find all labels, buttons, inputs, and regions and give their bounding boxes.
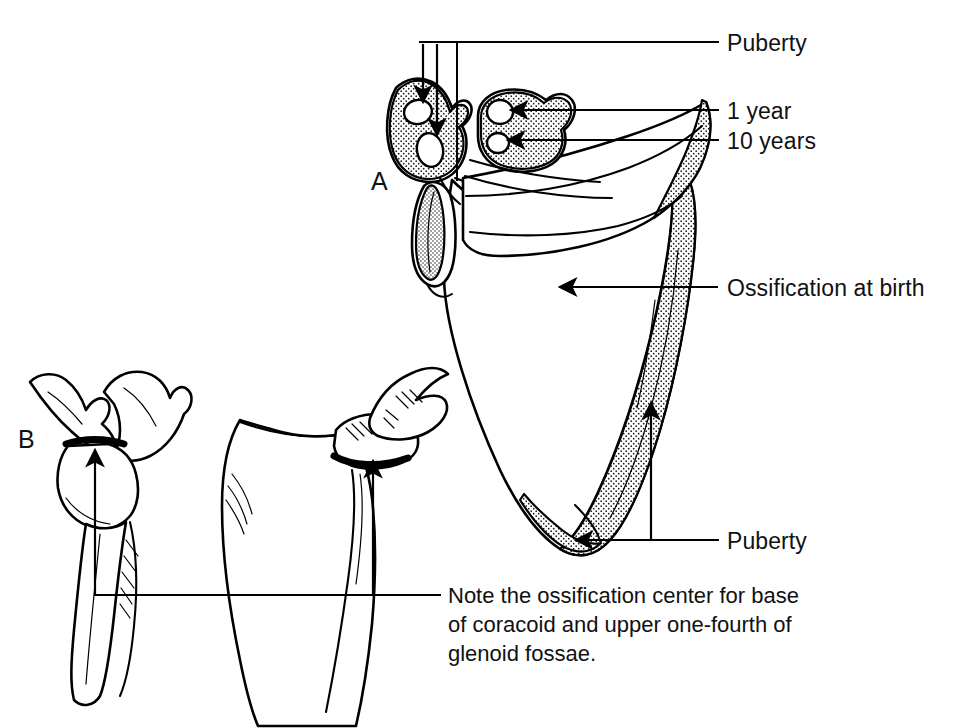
- scapula-lateral-view: [30, 372, 191, 705]
- label-ossification-at-birth: Ossification at birth: [727, 275, 925, 301]
- label-ten-years: 10 years: [727, 128, 816, 154]
- ossification-figure: Puberty 1 year 10 years Ossification at …: [0, 0, 970, 728]
- label-one-year: 1 year: [727, 98, 792, 124]
- label-puberty-bottom: Puberty: [727, 528, 807, 554]
- figure-canvas: Puberty 1 year 10 years Ossification at …: [0, 0, 970, 728]
- note-line-1: Note the ossification center for base: [448, 583, 799, 608]
- note-line-3: glenoid fossae.: [448, 641, 596, 666]
- panel-mid-coracoid: [369, 368, 448, 439]
- scapula-anterior-view: [387, 79, 710, 556]
- panel-b-glenoid: [57, 444, 138, 529]
- label-puberty-top: Puberty: [727, 30, 807, 56]
- acromion-center-upper: [487, 100, 513, 124]
- panel-letter-a: A: [371, 167, 388, 195]
- panel-letter-b: B: [18, 425, 35, 453]
- acromion-center-lower: [487, 133, 509, 153]
- scapula-posterior-view: [222, 368, 448, 726]
- note-line-2: of coracoid and upper one-fourth of: [448, 612, 793, 637]
